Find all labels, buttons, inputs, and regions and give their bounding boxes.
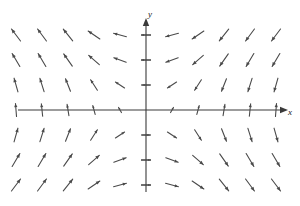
arrow-head — [174, 159, 178, 162]
field-arrow — [114, 57, 126, 62]
field-arrow — [272, 54, 280, 67]
field-arrow — [38, 54, 46, 67]
field-arrow — [248, 128, 253, 141]
field-arrow — [246, 154, 254, 167]
field-arrow — [220, 54, 229, 66]
field-arrow — [246, 179, 255, 191]
field-arrow — [11, 179, 20, 191]
field-arrow — [166, 183, 179, 187]
field-arrow — [167, 132, 176, 138]
field-arrow — [166, 158, 178, 163]
field-arrow — [271, 179, 280, 191]
field-arrow — [64, 154, 73, 166]
x-axis-label: x — [287, 107, 292, 117]
field-arrow — [167, 82, 176, 88]
field-arrow — [192, 181, 204, 189]
field-arrow — [91, 80, 98, 90]
field-arrow — [273, 78, 278, 92]
field-arrow — [272, 154, 280, 167]
field-arrow — [88, 181, 100, 189]
arrow-head — [247, 87, 250, 91]
field-arrow — [14, 104, 17, 117]
field-arrow — [38, 154, 46, 167]
field-arrow — [11, 29, 20, 41]
field-arrow — [13, 78, 18, 92]
field-arrow — [39, 78, 44, 91]
arrow-head — [148, 159, 150, 161]
field-arrow — [114, 33, 127, 37]
field-arrow — [219, 29, 228, 41]
vector-field-figure: x y — [0, 0, 300, 206]
arrow-head — [142, 59, 144, 61]
field-arrow — [115, 82, 124, 88]
field-arrow — [89, 55, 100, 64]
field-arrow — [12, 154, 20, 167]
x-axis-arrowhead — [280, 107, 288, 113]
field-arrow — [219, 179, 228, 191]
arrow-head — [166, 59, 170, 62]
field-arrow — [193, 155, 204, 164]
field-arrow — [192, 31, 204, 39]
field-arrow — [246, 54, 254, 67]
field-arrow — [38, 179, 47, 191]
field-arrow — [63, 29, 72, 41]
field-arrow — [89, 155, 100, 164]
field-arrow — [38, 29, 47, 41]
field-arrow — [222, 129, 227, 141]
field-arrow — [40, 128, 45, 141]
field-arrow — [246, 29, 255, 41]
arrow-head — [148, 184, 150, 186]
arrow-head — [249, 137, 252, 141]
field-arrow — [66, 129, 71, 141]
field-arrow — [114, 157, 126, 162]
arrow-head — [275, 104, 278, 108]
arrow-head — [147, 134, 149, 136]
field-arrow — [14, 128, 19, 142]
field-arrow — [271, 29, 280, 41]
arrow-head — [41, 128, 44, 132]
field-arrow — [91, 130, 98, 140]
field-arrow — [166, 58, 178, 63]
arrow-head — [142, 34, 144, 36]
field-arrow — [12, 54, 20, 67]
y-axis-arrowhead — [143, 18, 149, 26]
arrow-head — [14, 104, 17, 108]
field-arrow — [193, 55, 204, 64]
field-arrow — [195, 80, 202, 90]
field-arrow — [247, 78, 252, 91]
field-arrow — [195, 130, 202, 140]
field-arrow — [64, 54, 73, 66]
arrow-head — [122, 157, 126, 160]
y-axis-label: y — [147, 9, 152, 19]
field-arrow — [63, 179, 72, 191]
field-arrow — [115, 132, 124, 138]
field-arrow — [65, 79, 70, 91]
field-arrow — [88, 31, 100, 39]
arrow-head — [114, 57, 118, 60]
field-arrow — [220, 154, 229, 166]
field-arrow — [221, 79, 226, 91]
axes-group — [18, 18, 288, 192]
field-arrow — [166, 33, 179, 37]
arrow-head — [143, 84, 145, 86]
field-arrow — [274, 128, 279, 142]
arrow-head — [39, 78, 42, 82]
vector-field-plot: x y — [0, 0, 300, 206]
field-arrow — [114, 183, 127, 187]
